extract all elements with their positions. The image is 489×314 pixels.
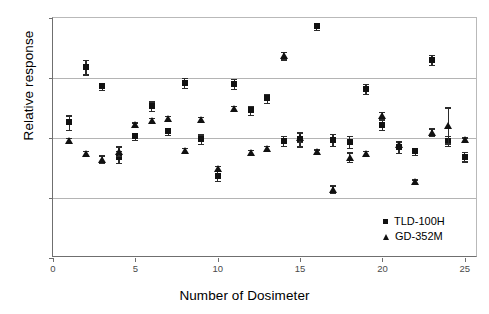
data-point <box>459 134 471 146</box>
triangle-marker-icon <box>263 145 271 152</box>
error-bar-cap <box>314 30 320 31</box>
x-tick-label: 5 <box>120 263 150 274</box>
triangle-marker-icon <box>65 137 73 144</box>
error-bar-cap <box>429 136 435 137</box>
data-point <box>195 113 207 125</box>
square-marker-icon <box>66 119 72 125</box>
error-bar-cap <box>297 142 303 143</box>
x-tick-label: 25 <box>450 263 480 274</box>
triangle-marker-icon <box>280 52 288 59</box>
error-bar-cap <box>66 115 72 116</box>
data-point <box>426 54 438 66</box>
square-marker-icon <box>231 81 237 87</box>
data-point <box>228 78 240 90</box>
triangle-marker-icon <box>411 178 419 185</box>
triangle-marker-icon <box>346 154 354 161</box>
triangle-marker-icon <box>148 117 156 124</box>
error-bar-cap <box>231 89 237 90</box>
data-point <box>63 116 75 128</box>
error-bar-cap <box>99 90 105 91</box>
x-tick-mark <box>218 258 219 262</box>
triangle-marker-icon <box>383 234 389 240</box>
data-point <box>278 135 290 147</box>
triangle-marker-icon <box>164 115 172 122</box>
data-point <box>426 126 438 138</box>
error-bar-cap <box>83 60 89 61</box>
data-point <box>80 61 92 73</box>
x-tick-label: 20 <box>367 263 397 274</box>
error-bar-cap <box>297 146 303 147</box>
error-bar-cap <box>83 74 89 75</box>
x-tick-mark <box>465 258 466 262</box>
triangle-marker-icon <box>131 121 139 128</box>
error-bar-cap <box>429 65 435 66</box>
error-bar-cap <box>281 59 287 60</box>
data-point <box>162 125 174 137</box>
data-point <box>311 20 323 32</box>
error-bar-cap <box>396 153 402 154</box>
triangle-marker-icon <box>230 105 238 112</box>
square-marker-icon <box>330 137 336 143</box>
legend-label: GD-352M <box>395 229 443 244</box>
error-bar-cap <box>445 146 451 147</box>
triangle-marker-icon <box>362 150 370 157</box>
error-bar-cap <box>248 115 254 116</box>
triangle-marker-icon <box>82 150 90 157</box>
data-point <box>327 183 339 195</box>
data-point <box>228 103 240 115</box>
data-point <box>146 100 158 112</box>
data-point <box>63 134 75 146</box>
triangle-marker-icon <box>98 156 106 163</box>
error-bar-cap <box>412 155 418 156</box>
data-point <box>442 119 454 131</box>
data-point <box>113 145 125 157</box>
square-marker-icon <box>99 83 105 89</box>
triangle-marker-icon <box>214 165 222 172</box>
y-tick-mark <box>49 138 53 139</box>
triangle-marker-icon <box>461 136 469 143</box>
data-point <box>278 50 290 62</box>
data-point <box>459 151 471 163</box>
data-point <box>245 146 257 158</box>
data-point <box>96 80 108 92</box>
x-tick-mark <box>300 258 301 262</box>
square-marker-icon <box>132 133 138 139</box>
error-bar-cap <box>445 143 451 144</box>
triangle-marker-icon <box>313 148 321 155</box>
square-marker-icon <box>429 57 435 63</box>
triangle-marker-icon <box>329 186 337 193</box>
error-bar-cap <box>445 107 451 108</box>
data-point <box>96 153 108 165</box>
triangle-marker-icon <box>296 134 304 141</box>
y-axis-title: Relative response <box>21 6 36 166</box>
legend-item-gd-352m: GD-352M <box>383 229 445 244</box>
error-bar-cap <box>116 156 122 157</box>
error-bar-cap <box>330 134 336 135</box>
data-point <box>129 130 141 142</box>
error-bar-cap <box>330 193 336 194</box>
square-marker-icon <box>182 80 188 86</box>
triangle-marker-icon <box>444 122 452 129</box>
error-bar-cap <box>379 130 385 131</box>
error-bar-cap <box>347 162 353 163</box>
data-point <box>360 83 372 95</box>
data-point <box>327 134 339 146</box>
error-bar-cap <box>132 140 138 141</box>
error-bar-cap <box>149 111 155 112</box>
square-marker-icon <box>363 86 369 92</box>
data-point <box>245 104 257 116</box>
data-point <box>376 110 388 122</box>
error-bar-cap <box>347 136 353 137</box>
y-tick-mark <box>49 18 53 19</box>
data-point <box>360 148 372 160</box>
square-marker-icon <box>149 103 155 109</box>
square-marker-icon <box>383 219 388 224</box>
legend-label: TLD-100H <box>394 214 445 229</box>
data-point <box>344 151 356 163</box>
x-tick-label: 15 <box>285 263 315 274</box>
error-bar-cap <box>264 103 270 104</box>
error-bar-cap <box>379 119 385 120</box>
data-point <box>212 163 224 175</box>
square-marker-icon <box>281 138 287 144</box>
data-point <box>294 131 306 143</box>
